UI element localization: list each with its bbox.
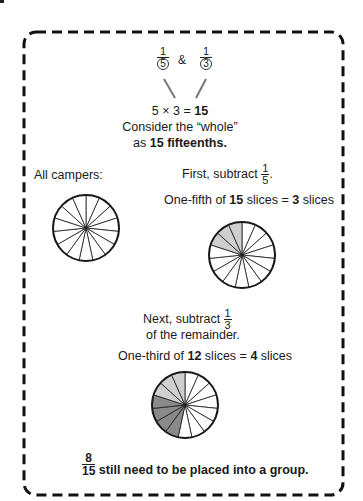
- ampersand: &: [178, 53, 186, 67]
- step1-calc: One-fifth of 15 slices = 3 slices: [164, 192, 334, 208]
- step2-line2: of the remainder.: [146, 327, 240, 343]
- pie-after-one-third: [150, 370, 220, 440]
- arrows: [150, 76, 220, 102]
- stray-mark: [0, 0, 4, 3]
- pie-after-one-fifth: [207, 220, 277, 290]
- all-campers-label: All campers:: [34, 167, 103, 183]
- as-fifteenths: as 15 fifteenths.: [80, 135, 280, 151]
- pie-all-campers: [51, 193, 121, 263]
- equation: 5 × 3 = 15: [80, 103, 280, 119]
- fraction-one-third: 13: [200, 46, 212, 70]
- step2-calc: One-third of 12 slices = 4 slices: [118, 348, 292, 364]
- fraction-one-fifth: 15: [157, 46, 169, 70]
- conclusion: 815 still need to be placed into a group…: [82, 452, 309, 477]
- step1-title: First, subtract 15.: [182, 163, 273, 186]
- consider-line: Consider the “whole”: [80, 119, 280, 135]
